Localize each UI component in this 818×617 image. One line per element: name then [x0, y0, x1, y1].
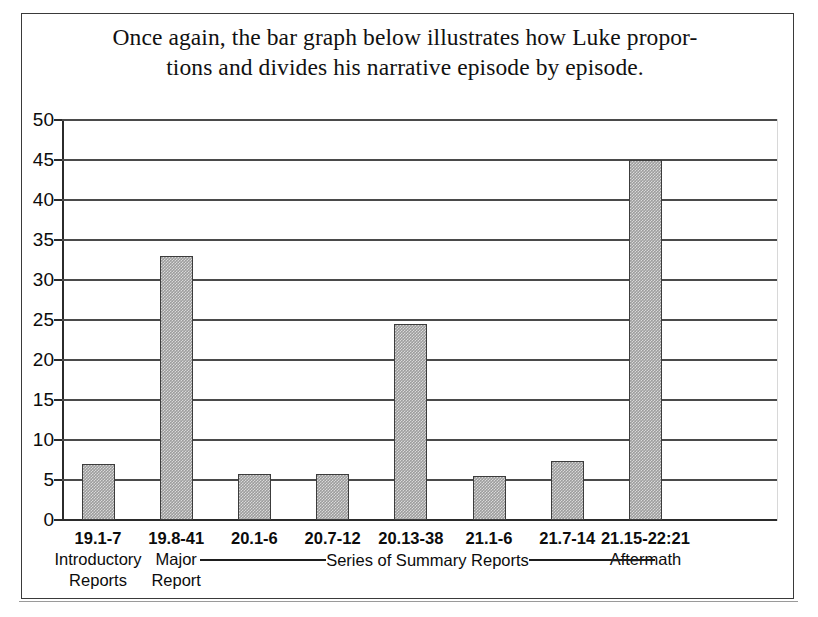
gridline: [62, 119, 777, 120]
y-axis-tick-label: 15: [10, 390, 54, 409]
y-axis-tick-label: 10: [10, 430, 54, 449]
y-axis-tick: [54, 479, 62, 480]
y-axis-tick: [54, 439, 62, 440]
y-axis-tick-label: 45: [10, 150, 54, 169]
chart-title-line-1: Once again, the bar graph below illustra…: [55, 22, 755, 52]
gridline: [62, 199, 777, 200]
y-axis-tick: [54, 199, 62, 200]
y-axis-tick-labels: 05101520253035404550: [8, 120, 54, 520]
bar: [316, 474, 349, 520]
bar: [238, 474, 271, 520]
gridline: [62, 159, 777, 160]
y-axis-tick-label: 30: [10, 270, 54, 289]
y-axis-tick-label: 25: [10, 310, 54, 329]
chart-title: Once again, the bar graph below illustra…: [55, 22, 755, 82]
series-bracket: Series of Summary Reports: [200, 549, 655, 571]
y-axis-tick: [54, 279, 62, 280]
y-axis-tick: [54, 519, 62, 520]
y-axis-tick-label: 0: [10, 510, 54, 529]
y-axis-tick-label: 40: [10, 190, 54, 209]
x-axis-category-desc: Report: [116, 570, 236, 591]
y-axis-tick: [54, 239, 62, 240]
bar: [160, 256, 193, 520]
bar: [394, 324, 427, 520]
y-axis-tick: [54, 399, 62, 400]
bar: [473, 476, 506, 520]
chart-title-line-2: tions and divides his narrative episode …: [55, 52, 755, 82]
bar: [82, 464, 115, 520]
bar: [629, 160, 662, 520]
y-axis-tick: [54, 319, 62, 320]
y-axis-tick: [54, 359, 62, 360]
y-axis-tick-label: 5: [10, 470, 54, 489]
bar: [551, 461, 584, 520]
bracket-label: Series of Summary Reports: [326, 551, 529, 570]
bracket-rule-left: [200, 559, 326, 561]
y-axis-tick: [54, 159, 62, 160]
gridline: [62, 239, 777, 240]
y-axis-tick-label: 20: [10, 350, 54, 369]
scanned-page: Once again, the bar graph below illustra…: [0, 0, 818, 617]
y-axis-tick: [54, 119, 62, 120]
y-axis-tick-label: 50: [10, 110, 54, 129]
y-axis-tick-label: 35: [10, 230, 54, 249]
bracket-rule-right: [529, 559, 655, 561]
plot-right-edge: [777, 119, 778, 521]
x-axis-category-code: 21.15-22:21: [585, 528, 705, 549]
plot-area: [62, 120, 777, 520]
